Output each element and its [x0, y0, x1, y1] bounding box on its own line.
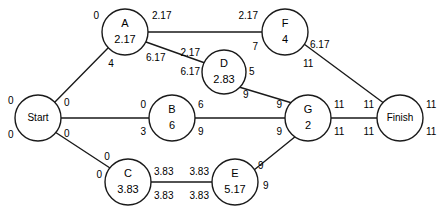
node-B[interactable]: B6 [149, 95, 195, 141]
node-duration-G: 2 [305, 119, 311, 131]
network-diagram-canvas: StartA2.17B6C3.83D2.83E5.17F4G2Finish 00… [0, 0, 437, 213]
edge-F-finish [304, 44, 385, 104]
label-D-es: 2.17 [181, 47, 201, 58]
label-start-ef-b: 0 [64, 128, 70, 139]
label-C-lf: 3.83 [154, 190, 174, 201]
node-G[interactable]: G2 [285, 95, 331, 141]
node-duration-D: 2.83 [213, 73, 234, 85]
label-G-ls: 9 [276, 126, 282, 137]
node-C[interactable]: C3.83 [105, 159, 151, 205]
label-E-ls: 3.83 [190, 190, 210, 201]
label-A-es: 0 [93, 10, 99, 21]
label-B-es: 0 [140, 99, 146, 110]
label-finish-ef: 11 [426, 99, 437, 110]
label-start-ef-a: 0 [64, 97, 70, 108]
node-F[interactable]: F4 [262, 9, 308, 55]
node-label-E: E [231, 167, 238, 179]
label-C-es-up: 0 [104, 151, 110, 162]
node-label-G: G [304, 103, 313, 115]
label-F-ls: 7 [252, 41, 258, 52]
node-duration-E: 5.17 [224, 183, 245, 195]
label-A-ls: 4 [108, 58, 114, 69]
node-duration-C: 3.83 [117, 183, 138, 195]
node-finish[interactable]: Finish [377, 95, 423, 141]
label-G-lf: 11 [334, 126, 345, 137]
label-F-es: 2.17 [239, 10, 259, 21]
label-F-lf: 11 [303, 58, 314, 69]
label-D-ef: 5 [249, 66, 255, 77]
label-C-ef: 3.83 [154, 166, 174, 177]
nodes-group: StartA2.17B6C3.83D2.83E5.17F4G2Finish [15, 9, 423, 205]
node-D[interactable]: D2.83 [202, 50, 246, 94]
node-label-F: F [282, 17, 289, 29]
node-label-C: C [124, 167, 132, 179]
node-label-B: B [168, 103, 175, 115]
label-B-ef: 6 [198, 99, 204, 110]
label-A-ef: 2.17 [152, 10, 172, 21]
node-label-D: D [220, 57, 228, 69]
label-B-lf: 9 [198, 126, 204, 137]
label-G-es: 9 [276, 99, 282, 110]
label-start-ls: 0 [8, 129, 14, 140]
network-diagram-svg: StartA2.17B6C3.83D2.83E5.17F4G2Finish 00… [0, 0, 437, 213]
label-D-ls: 6.17 [181, 66, 201, 77]
node-start[interactable]: Start [15, 95, 61, 141]
label-A-lf: 6.17 [146, 52, 166, 63]
edge-start-A [54, 48, 108, 103]
node-label-finish: Finish [387, 112, 414, 123]
node-duration-F: 4 [282, 33, 288, 45]
node-A[interactable]: A2.17 [102, 9, 148, 55]
node-duration-B: 6 [169, 119, 175, 131]
label-E-es: 3.83 [190, 166, 210, 177]
node-label-start: Start [27, 112, 48, 123]
label-finish-es: 11 [364, 99, 375, 110]
label-start-es: 0 [8, 95, 14, 106]
label-F-ef: 6.17 [310, 39, 330, 50]
label-G-ef: 11 [334, 99, 345, 110]
label-finish-ls: 11 [364, 126, 375, 137]
label-E-ef: 9 [258, 160, 264, 171]
label-finish-lf: 11 [426, 126, 437, 137]
node-E[interactable]: E5.17 [212, 159, 258, 205]
label-E-lf: 9 [263, 180, 269, 191]
label-C-ls: 0 [96, 169, 102, 180]
node-duration-A: 2.17 [114, 33, 135, 45]
label-B-ls: 3 [140, 126, 146, 137]
label-D-lf: 9 [243, 89, 249, 100]
node-label-A: A [121, 17, 129, 29]
